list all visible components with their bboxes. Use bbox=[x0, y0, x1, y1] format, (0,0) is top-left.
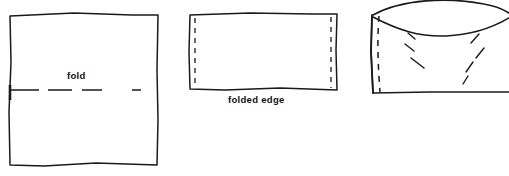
folded-edge-label: folded edge bbox=[225, 94, 288, 105]
flap-curl-upper-edge bbox=[373, 0, 509, 15]
fabric-folding-diagram: fold folded edge bbox=[0, 0, 509, 176]
flap-curl-lower-edge bbox=[373, 17, 509, 36]
rectangle-outline bbox=[189, 13, 337, 90]
figure-open-square bbox=[9, 13, 158, 166]
flap-left-edge bbox=[371, 15, 373, 93]
flap-dashed-seam bbox=[378, 16, 380, 92]
diagram-canvas bbox=[0, 0, 509, 176]
figure-folded-rectangle bbox=[189, 13, 337, 90]
fold-label: fold bbox=[64, 70, 89, 81]
figure-curled-flap bbox=[371, 0, 509, 93]
flap-shading-dashes bbox=[405, 33, 484, 84]
